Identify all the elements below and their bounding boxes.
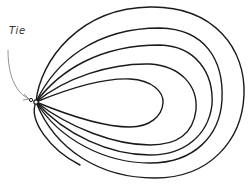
tie-knot-2 xyxy=(29,98,32,101)
loops-drawing xyxy=(0,0,250,185)
outer-loop xyxy=(36,7,244,178)
tie-diagram: Tie xyxy=(0,0,250,185)
lower-strand xyxy=(34,102,80,165)
loop-4 xyxy=(36,64,196,145)
loop-3 xyxy=(36,45,212,155)
annotation-arrow xyxy=(8,50,29,99)
tie-knot xyxy=(34,100,38,104)
tie-label: Tie xyxy=(9,25,26,36)
